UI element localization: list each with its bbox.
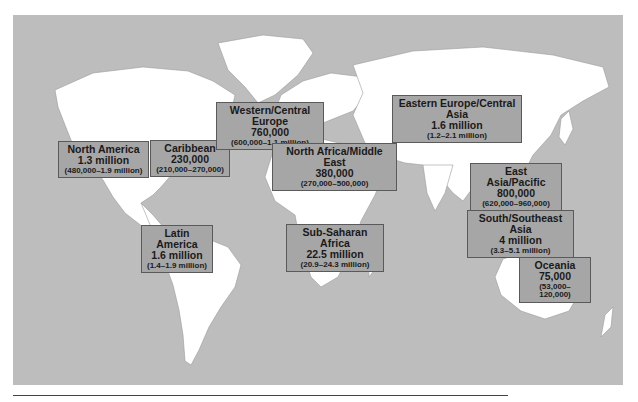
world-map-panel: North America 1.3 million (480,000–1.9 m…	[13, 15, 623, 385]
region-range: (20.9–24.3 million)	[291, 261, 379, 269]
region-range: (3.3–5.1 million)	[472, 247, 569, 255]
region-label-north-africa-middle-east: North Africa/Middle East 380,000 (270,00…	[272, 143, 397, 191]
region-value: 380,000	[277, 168, 392, 179]
region-value: 1.3 million	[63, 155, 144, 166]
region-name: Western/Central Europe	[221, 105, 319, 127]
region-value: 1.6 million	[146, 250, 208, 261]
region-name: Sub-Saharan Africa	[291, 227, 379, 249]
region-label-sub-saharan-africa: Sub-Saharan Africa 22.5 million (20.9–24…	[286, 224, 384, 272]
region-value: 230,000	[155, 154, 225, 165]
region-range: (270,000–500,000)	[277, 180, 392, 188]
region-label-south-southeast-asia: South/Southeast Asia 4 million (3.3–5.1 …	[467, 210, 574, 258]
region-range: (480,000–1.9 million)	[63, 167, 144, 175]
region-range: (210,000–270,000)	[155, 166, 225, 174]
region-label-eastern-europe-central-asia: Eastern Europe/Central Asia 1.6 million …	[392, 95, 522, 143]
region-label-east-asia-pacific: East Asia/Pacific 800,000 (620,000–960,0…	[470, 163, 562, 211]
region-label-latin-america: Latin America 1.6 million (1.4–1.9 milli…	[141, 225, 213, 273]
region-range: (620,000–960,000)	[475, 200, 557, 208]
region-value: 4 million	[472, 235, 569, 246]
bottom-divider	[13, 395, 508, 396]
region-name: Latin America	[146, 228, 208, 250]
region-label-north-america: North America 1.3 million (480,000–1.9 m…	[58, 141, 149, 178]
region-range: (1.2–2.1 million)	[397, 132, 517, 140]
region-value: 800,000	[475, 188, 557, 199]
region-value: 75,000	[524, 271, 586, 282]
region-range: (1.4–1.9 million)	[146, 262, 208, 270]
region-name: North Africa/Middle East	[277, 146, 392, 168]
region-value: 760,000	[221, 127, 319, 138]
region-value: 22.5 million	[291, 249, 379, 260]
region-name: East Asia/Pacific	[475, 166, 557, 188]
region-range: (53,000–120,000)	[524, 283, 586, 300]
region-label-oceania: Oceania 75,000 (53,000–120,000)	[519, 257, 591, 303]
region-name: South/Southeast Asia	[472, 213, 569, 235]
region-name: Eastern Europe/Central Asia	[397, 98, 517, 120]
region-value: 1.6 million	[397, 120, 517, 131]
